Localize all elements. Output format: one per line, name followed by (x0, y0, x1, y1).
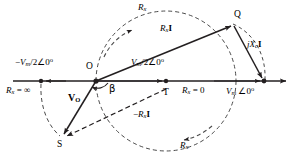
label-vm-half: Vm/2∠0o (131, 57, 164, 68)
label-neg-rx-i: −RxI (133, 110, 150, 120)
label-vo: VO (68, 93, 80, 104)
label-rx-arc-top: Rx (138, 3, 146, 13)
point-label-Q: Q (234, 10, 241, 20)
phasor-diagram-figure: −Vm/2∠0o Rx = ∞ Vm/2∠0o Rx = 0 Vm ∠0o Rx… (0, 0, 300, 164)
label-rx-infinite: Rx = ∞ (6, 86, 30, 96)
node-dot-left (39, 79, 43, 83)
label-beta: β (109, 84, 115, 94)
node-dot-right (262, 79, 267, 84)
label-jxc-i: jXcI (247, 40, 261, 50)
vector-rx-i (96, 26, 231, 81)
vector-vo (64, 81, 96, 134)
label-neg-vm-half: −Vm/2∠0o (15, 57, 53, 68)
point-label-O: O (86, 62, 93, 72)
label-vm-zero: Vm ∠0o (226, 86, 254, 97)
rx-direction-arc-bottom (184, 126, 212, 140)
label-rx-zero: Rx = 0 (182, 86, 204, 96)
point-label-T: T (163, 88, 169, 98)
label-rx-arc-bottom: Rx (180, 141, 188, 151)
left-node-arc (41, 84, 60, 136)
vector-neg-rx-i (67, 89, 166, 136)
phasor-diagram-canvas (0, 0, 300, 164)
point-label-S: S (57, 140, 62, 150)
rx-direction-arc-top (104, 30, 132, 57)
label-rx-i: RxI (160, 24, 172, 34)
vector-jxc-i (234, 26, 262, 78)
node-dot-T (164, 79, 168, 83)
